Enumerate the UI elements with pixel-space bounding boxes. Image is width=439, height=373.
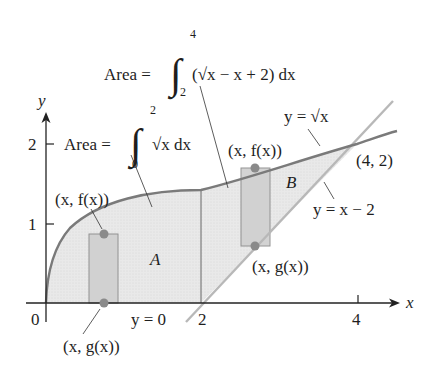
area-b-integrand: (√x − x + 2) dx <box>192 65 296 84</box>
area-a-lower: 0 <box>132 157 138 171</box>
label-line-curve: y = x − 2 <box>313 200 375 219</box>
area-between-curves-diagram: Area = ∫ 4 2 (√x − x + 2) dx Area = ∫ 2 … <box>0 0 439 373</box>
label-sqrt-curve: y = √x <box>284 107 329 126</box>
leader-gx-a <box>83 309 100 334</box>
area-b-prefix: Area = <box>104 65 151 84</box>
label-fx-a: (x, f(x)) <box>55 190 109 209</box>
label-gx-b: (x, g(x)) <box>252 257 309 276</box>
leader-line <box>324 182 334 199</box>
y-axis-label: y <box>36 91 46 110</box>
rect-b <box>241 168 270 246</box>
label-fx-b: (x, f(x)) <box>228 141 282 160</box>
area-b-upper: 4 <box>190 27 196 41</box>
tick-label-y1: 1 <box>28 215 37 234</box>
label-intersection: (4, 2) <box>356 151 393 170</box>
region-a-label: A <box>149 250 161 269</box>
label-gx-a: (x, g(x)) <box>63 337 120 356</box>
area-a-integrand: √x dx <box>152 135 192 154</box>
area-a-prefix: Area = <box>64 135 111 154</box>
leader-sqrt <box>308 129 320 146</box>
area-b-lower: 2 <box>180 85 186 99</box>
label-y-zero: y = 0 <box>131 310 166 329</box>
dot-fx-a <box>100 230 109 239</box>
dot-gx-b <box>251 242 260 251</box>
tick-label-x4: 4 <box>352 310 361 329</box>
tick-label-x0: 0 <box>31 310 40 329</box>
tick-label-y2: 2 <box>28 135 37 154</box>
x-axis-label: x <box>405 293 414 312</box>
region-b-label: B <box>286 173 297 192</box>
dot-fx-b <box>251 164 260 173</box>
leader-area-b <box>200 86 228 188</box>
area-a-upper: 2 <box>150 103 156 117</box>
tick-label-x2: 2 <box>198 310 207 329</box>
rect-a <box>89 234 118 303</box>
dot-gx-a <box>100 299 109 308</box>
